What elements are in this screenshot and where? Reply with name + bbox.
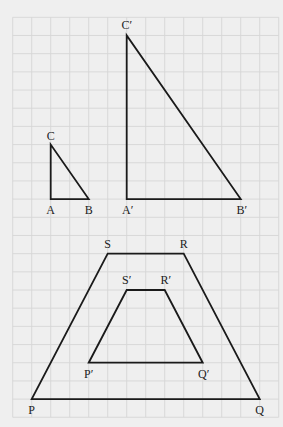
vertex-label: P [28, 403, 35, 417]
vertex-label: B′ [236, 203, 247, 217]
vertex-label: P′ [84, 367, 94, 381]
vertex-label: Q [255, 403, 264, 417]
vertex-label: S′ [122, 273, 132, 287]
vertex-label: A′ [122, 203, 134, 217]
vertex-label: R′ [160, 273, 171, 287]
diagram-canvas: ABCA′B′C′PQRSP′Q′R′S′ [0, 0, 283, 427]
vertex-label: B [85, 203, 93, 217]
vertex-label: R [180, 237, 188, 251]
vertex-label: Q′ [198, 367, 210, 381]
vertex-label: C′ [121, 18, 132, 32]
vertex-label: A [46, 203, 55, 217]
vertex-label: S [104, 237, 111, 251]
vertex-label: C [47, 129, 55, 143]
